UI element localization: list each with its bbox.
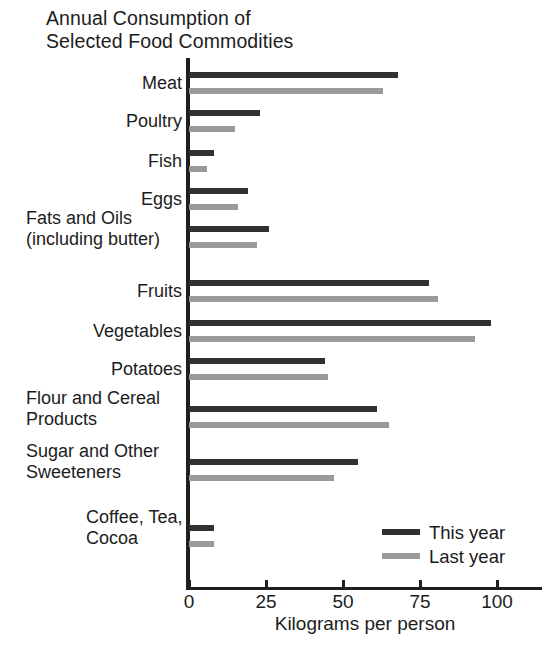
bar-last-year [189,475,334,481]
bar-this-year [189,226,269,232]
legend-swatch-last-year [382,553,420,559]
legend-label-this-year: This year [429,522,505,543]
category-label: Sugar and Other Sweeteners [26,441,182,483]
category-label: Fats and Oils (including butter) [26,208,182,250]
bar-last-year [189,88,383,94]
bar-this-year [189,188,248,194]
category-label: Meat [142,73,182,94]
category-label: Flour and Cereal Products [26,388,182,430]
chart-legend: This year Last year [382,521,542,569]
category-label: Vegetables [93,321,182,342]
x-tick-75 [419,580,422,588]
category-label: Coffee, Tea, Cocoa [86,507,242,549]
bar-this-year [189,459,358,465]
bar-last-year [189,242,257,248]
x-tick-label-50: 50 [332,591,353,613]
category-label: Fruits [137,281,182,302]
bar-chart: Annual Consumption of Selected Food Comm… [0,0,546,653]
bar-last-year [189,336,475,342]
x-tick-label-75: 75 [409,591,430,613]
legend-swatch-this-year [382,529,420,535]
x-tick-label-100: 100 [481,591,513,613]
bar-last-year [189,296,438,302]
legend-item-this-year: This year [382,521,542,543]
bar-this-year [189,150,214,156]
x-tick-25 [265,580,268,588]
x-axis-title: Kilograms per person [189,613,541,635]
x-tick-label-0: 0 [184,591,195,613]
bar-this-year [189,72,398,78]
legend-item-last-year: Last year [382,545,542,567]
bar-this-year [189,110,260,116]
bar-last-year [189,204,238,210]
x-tick-0 [188,580,191,588]
legend-label-last-year: Last year [429,546,505,567]
bar-this-year [189,320,491,326]
bar-this-year [189,358,325,364]
chart-title: Annual Consumption of Selected Food Comm… [46,7,466,53]
category-label: Fish [148,151,182,172]
category-label: Poultry [126,111,182,132]
bar-last-year [189,126,235,132]
bar-this-year [189,406,377,412]
bar-last-year [189,422,389,428]
category-label: Eggs [141,189,182,210]
bar-this-year [189,280,429,286]
bar-last-year [189,374,328,380]
category-label: Potatoes [111,359,182,380]
x-tick-label-25: 25 [255,591,276,613]
x-tick-50 [342,580,345,588]
x-tick-100 [496,580,499,588]
bar-last-year [189,166,207,172]
